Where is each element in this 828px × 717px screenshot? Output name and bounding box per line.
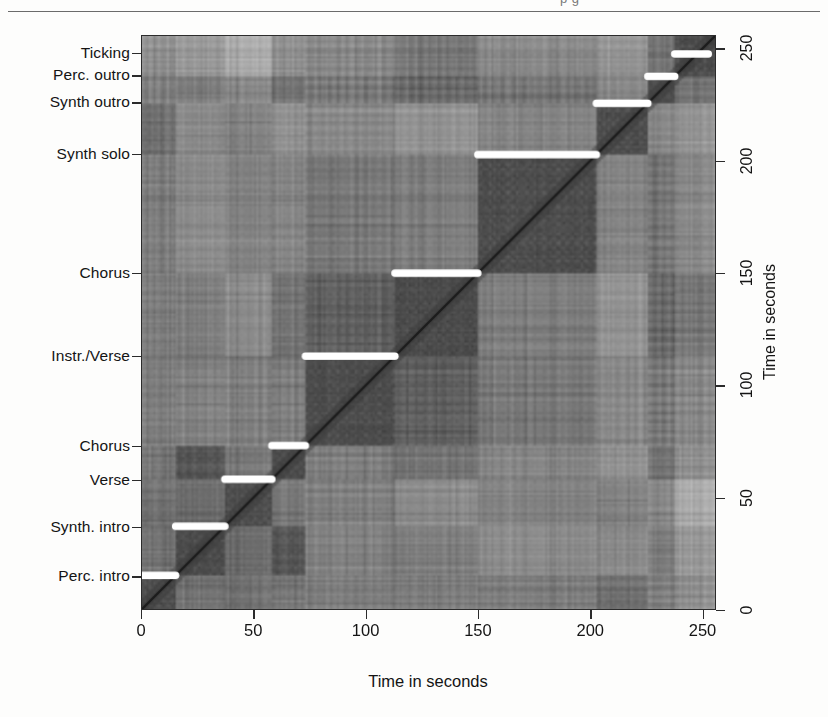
y-axis-tick-label: 150 [738,251,756,295]
y-axis-segment-tick [132,446,141,447]
y-axis-tick-label: 0 [738,588,756,632]
y-axis-segment-label: Instr./Verse [51,347,130,365]
y-axis-segment-tick [132,527,141,528]
y-axis-segment-tick [132,75,141,76]
y-axis-segment-tick [132,480,141,481]
x-axis-tick [141,610,142,619]
y-axis-segment-label: Verse [90,471,130,489]
x-axis-tick-label: 150 [464,621,492,640]
x-axis-tick [253,610,254,619]
x-axis-labels: 050100150200250 [141,621,716,647]
y-axis-segment-tick [132,273,141,274]
cut-off-header-text: p g [560,0,780,7]
y-axis-segment-label: Chorus [79,437,130,455]
y-axis-tick-label: 50 [738,476,756,520]
y-axis-segment-tick [132,356,141,357]
x-axis-title: Time in seconds [368,672,488,691]
x-axis-ticks [141,35,716,610]
y-axis-tick [716,273,725,274]
y-axis-segment-label: Synth solo [57,145,130,163]
y-axis-title: Time in seconds [761,264,779,380]
y-axis-segment-label: Synth outro [50,93,130,111]
x-axis-tick [703,610,704,619]
y-axis-tick-label: 200 [738,139,756,183]
y-axis-segment-tick [132,102,141,103]
y-axis-left-segments: TickingPerc. outroSynth outroSynth soloC… [0,35,130,610]
page-horizontal-rule [8,11,820,12]
y-axis-segment-label: Chorus [79,264,130,282]
figure-page: p g TickingPerc. outroSynth outroSynth s… [0,0,828,717]
y-axis-segment-label: Ticking [81,44,130,62]
y-axis-segment-label: Perc. intro [58,567,130,585]
x-axis-tick-label: 250 [689,621,717,640]
y-axis-tick [716,161,725,162]
y-axis-segment-label: Perc. outro [53,66,130,84]
y-axis-tick [716,610,725,611]
y-axis-segment-tick [132,576,141,577]
y-axis-tick [716,385,725,386]
x-axis-tick-label: 0 [136,621,145,640]
x-axis-tick-label: 100 [352,621,380,640]
x-axis-tick [590,610,591,619]
y-axis-tick-label: 250 [738,26,756,70]
y-axis-tick-label: 100 [738,363,756,407]
y-axis-segment-label: Synth. intro [50,518,130,536]
x-axis-tick-label: 200 [576,621,604,640]
y-axis-segment-tick [132,53,141,54]
y-axis-segment-tick [132,154,141,155]
x-axis-tick [366,610,367,619]
x-axis-tick-label: 50 [244,621,262,640]
y-axis-tick [716,48,725,49]
y-axis-tick [716,498,725,499]
x-axis-tick [478,610,479,619]
